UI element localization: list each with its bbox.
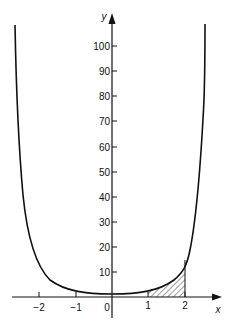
y-axis-label: y bbox=[101, 11, 108, 22]
hatched-area bbox=[148, 260, 185, 297]
y-tick-label: 10 bbox=[99, 267, 111, 278]
y-tick-label: 80 bbox=[99, 91, 111, 102]
y-tick-label: 30 bbox=[99, 217, 111, 228]
y-tick-label: 20 bbox=[99, 242, 111, 253]
x-axis-label: x bbox=[215, 304, 222, 315]
x-axis-arrow-icon bbox=[212, 294, 222, 301]
y-tick-label: 70 bbox=[99, 116, 111, 127]
y-axis-arrow-icon bbox=[109, 13, 116, 24]
chart: −2 −1 0 1 2 10 20 30 40 50 60 70 80 90 1… bbox=[0, 0, 234, 327]
y-tick-label: 100 bbox=[93, 41, 110, 52]
x-tick-label: 1 bbox=[145, 300, 151, 311]
x-tick-label: 2 bbox=[182, 300, 188, 311]
curve bbox=[15, 24, 205, 294]
x-tick-label: −1 bbox=[70, 302, 82, 313]
x-tick-label: 0 bbox=[104, 302, 110, 313]
y-ticks bbox=[112, 46, 117, 272]
x-tick-label: −2 bbox=[33, 302, 45, 313]
y-tick-label: 60 bbox=[99, 142, 111, 153]
y-tick-label: 50 bbox=[99, 167, 111, 178]
y-tick-label: 90 bbox=[99, 66, 111, 77]
y-tick-label: 40 bbox=[99, 192, 111, 203]
